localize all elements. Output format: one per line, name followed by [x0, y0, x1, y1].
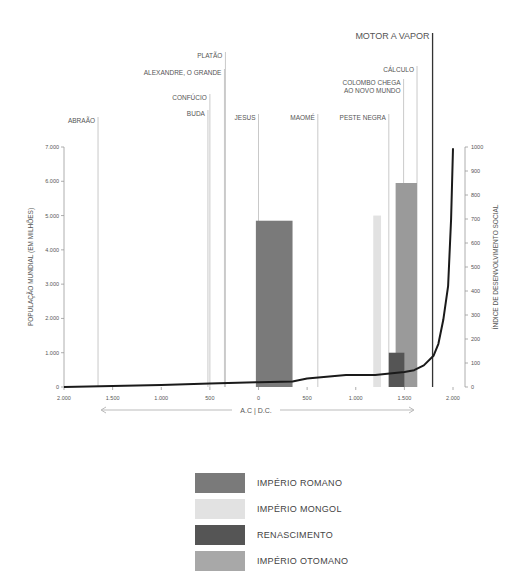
legend-item: IMPÉRIO MONGOL: [195, 496, 348, 522]
bar: [256, 221, 293, 387]
y-right-tick-label: 1000: [471, 144, 483, 150]
x-tick-label: 2.000: [57, 395, 71, 401]
x-tick-label: 500: [303, 395, 312, 401]
x-tick-label: 1.500: [397, 395, 411, 401]
x-tick-label: 1.500: [106, 395, 120, 401]
y-right-tick-label: 300: [471, 312, 480, 318]
legend-item: IMPÉRIO OTOMANO: [195, 548, 348, 574]
event-label: CONFÚCIO: [172, 93, 207, 101]
y-left-tick-label: 4.000: [45, 247, 59, 253]
legend-swatch: [195, 525, 245, 545]
event-label: AO NOVO MUNDO: [344, 87, 401, 94]
x-tick-label: 1.000: [349, 395, 363, 401]
legend-label: IMPÉRIO ROMANO: [257, 478, 342, 488]
legend-item: RENASCIMENTO: [195, 522, 348, 548]
y-right-tick-label: 500: [471, 264, 480, 270]
bar: [373, 216, 381, 387]
event-label: JESUS: [235, 114, 257, 121]
y-right-tick-label: 200: [471, 336, 480, 342]
y-left-tick-label: 6.000: [45, 178, 59, 184]
x-tick-label: 1.000: [154, 395, 168, 401]
event-label: CÁLCULO: [383, 65, 414, 73]
y-left-tick-label: 5.000: [45, 213, 59, 219]
legend-label: IMPÉRIO MONGOL: [257, 504, 342, 514]
event-label: ALEXANDRE, O GRANDE: [144, 69, 222, 76]
y-left-axis-title: POPULAÇÃO MUNDIAL (EM MILHÕES): [26, 208, 35, 326]
legend-label: IMPÉRIO OTOMANO: [257, 556, 348, 566]
y-right-tick-label: 400: [471, 288, 480, 294]
event-label: ABRAÃO: [68, 116, 95, 124]
y-left-tick-label: 3.000: [45, 281, 59, 287]
legend-label: RENASCIMENTO: [257, 530, 333, 540]
y-right-tick-label: 800: [471, 192, 480, 198]
event-label: MAOMÉ: [290, 113, 315, 121]
y-right-tick-label: 900: [471, 168, 480, 174]
x-tick-label: 500: [205, 395, 214, 401]
legend: IMPÉRIO ROMANO IMPÉRIO MONGOL RENASCIMEN…: [195, 470, 348, 574]
bars: [256, 183, 417, 387]
y-right-axis-title: ÍNDICE DE DESENVOLVIMENTO SOCIAL: [491, 204, 499, 329]
legend-swatch: [195, 551, 245, 571]
y-right-tick-label: 100: [471, 360, 480, 366]
y-right-tick-label: 700: [471, 216, 480, 222]
legend-swatch: [195, 473, 245, 493]
chart-area: ABRAÃOBUDACONFÚCIOALEXANDRE, O GRANDEPLA…: [0, 0, 526, 460]
y-left-tick-label: 0: [56, 384, 59, 390]
event-label: COLOMBO CHEGA: [342, 79, 401, 86]
y-right-tick-label: 0: [471, 384, 474, 390]
y-left-tick-label: 2.000: [45, 315, 59, 321]
y-right-tick-label: 600: [471, 240, 480, 246]
event-label: BUDA: [187, 110, 206, 117]
y-left-tick-label: 1.000: [45, 350, 59, 356]
legend-item: IMPÉRIO ROMANO: [195, 470, 348, 496]
bar: [389, 353, 405, 387]
event-label: PLATÃO: [197, 51, 222, 59]
x-tick-label: 2.000: [446, 395, 460, 401]
x-tick-label: 0: [257, 395, 260, 401]
event-label: MOTOR A VAPOR: [355, 31, 430, 41]
y-left-tick-label: 7.000: [45, 144, 59, 150]
event-label: PESTE NEGRA: [340, 114, 387, 121]
x-axis-title: A.C | D.C.: [240, 407, 271, 415]
legend-swatch: [195, 499, 245, 519]
